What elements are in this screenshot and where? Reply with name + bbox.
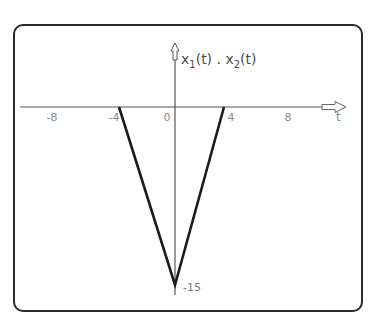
x-tick-label: 4 — [228, 112, 235, 123]
x-tick-label: -8 — [47, 112, 58, 123]
x-tick-label: -4 — [109, 112, 120, 123]
minimum-value-label: -15 — [183, 282, 201, 293]
y-axis-title: x1(t) . x2(t) — [181, 52, 257, 70]
signal-plot — [0, 0, 371, 319]
y-axis-arrow-icon — [171, 43, 179, 60]
x-tick-label: 8 — [285, 112, 292, 123]
signal-curve — [119, 107, 224, 285]
x-axis-title: t — [336, 111, 341, 123]
x-tick-label: 0 — [164, 112, 171, 123]
x-axis-arrow-icon — [322, 102, 346, 113]
